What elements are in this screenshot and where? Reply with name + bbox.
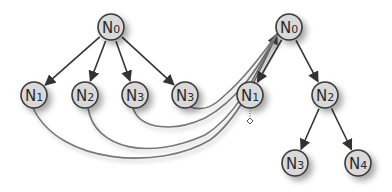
node-L1[interactable]: N1 — [21, 82, 47, 108]
node-R2[interactable]: N2 — [312, 82, 338, 108]
node-R0[interactable]: N0 — [276, 14, 302, 40]
tree-nodes: N0N1N2N3N3N0N1N2N3N4 — [21, 14, 371, 176]
edge-R2-to-R3 — [301, 109, 319, 150]
node-L2[interactable]: N2 — [72, 82, 98, 108]
diamond-icon — [247, 118, 253, 124]
node-L3[interactable]: N3 — [122, 82, 148, 108]
node-L0[interactable]: N0 — [98, 14, 124, 40]
node-markers — [247, 108, 253, 124]
edge-L0-to-L4 — [122, 37, 174, 85]
edge-L0-to-L2 — [90, 41, 105, 81]
edge-R0-to-R2 — [296, 40, 318, 81]
tree-mapping-diagram: N0N1N2N3N3N0N1N2N3N4 — [0, 0, 392, 192]
node-R4[interactable]: N4 — [345, 150, 371, 176]
edge-R2-to-R4 — [332, 108, 352, 149]
edge-L0-to-L3 — [116, 41, 130, 81]
node-L4[interactable]: N3 — [172, 82, 198, 108]
node-R3[interactable]: N3 — [282, 150, 308, 176]
node-R1[interactable]: N1 — [237, 82, 263, 108]
